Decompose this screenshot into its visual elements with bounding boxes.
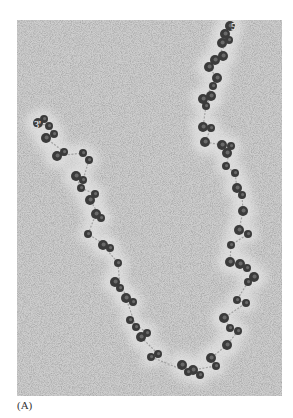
five-prime-label: 5'	[231, 22, 238, 32]
panel-label: (A)	[17, 400, 32, 411]
three-prime-label: 3'	[34, 120, 41, 130]
micrograph-canvas	[17, 20, 282, 396]
chromatin-micrograph: 5' 3'	[17, 20, 282, 396]
